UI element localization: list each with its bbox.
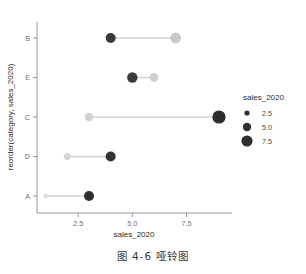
y-axis-title: reorder(category, sales_2020) xyxy=(6,63,15,170)
x-axis: 2.55.07.5 xyxy=(37,213,232,228)
y-axis-ticks: BECDA xyxy=(25,34,37,201)
x-axis-title: sales_2020 xyxy=(114,230,155,239)
legend: sales_2020 2.55.07.5 xyxy=(241,93,284,147)
y-axis: BECDA xyxy=(25,22,37,213)
legend-title: sales_2020 xyxy=(243,93,284,102)
data-point-C-3 xyxy=(85,113,93,121)
x-tick-label-2: 7.5 xyxy=(182,219,192,228)
legend-items: 2.55.07.5 xyxy=(241,109,272,147)
legend-label-2.5: 2.5 xyxy=(262,109,272,118)
data-point-C-9 xyxy=(212,110,225,123)
y-tick-label-A: A xyxy=(25,192,30,201)
chart-canvas: BECDA 2.55.07.5 sales_2020 reorder(categ… xyxy=(0,0,306,248)
y-tick-label-E: E xyxy=(25,73,30,82)
legend-marker-2.5 xyxy=(244,110,249,115)
legend-marker-5.0 xyxy=(243,123,251,131)
data-point-B-4 xyxy=(106,33,116,43)
data-point-D-2 xyxy=(64,153,71,160)
data-point-E-6 xyxy=(150,73,159,82)
dumbbell-segments xyxy=(46,38,219,196)
data-point-D-4 xyxy=(106,152,116,162)
data-point-B-7 xyxy=(170,33,181,44)
figure-caption: 图 4-6 哑铃图 xyxy=(0,248,306,263)
legend-label-7.5: 7.5 xyxy=(262,137,272,146)
x-tick-label-1: 5.0 xyxy=(127,219,137,228)
data-point-A-3 xyxy=(84,191,94,201)
x-tick-label-0: 2.5 xyxy=(73,219,83,228)
data-point-A-1 xyxy=(43,194,47,198)
legend-marker-7.5 xyxy=(241,135,252,146)
x-axis-ticks: 2.55.07.5 xyxy=(73,213,191,228)
y-tick-label-B: B xyxy=(25,34,30,43)
legend-label-5.0: 5.0 xyxy=(262,123,272,132)
y-tick-label-C: C xyxy=(25,113,30,122)
dumbbell-chart-figure: BECDA 2.55.07.5 sales_2020 reorder(categ… xyxy=(0,0,306,274)
y-tick-label-D: D xyxy=(25,152,30,161)
data-point-E-5 xyxy=(127,72,137,82)
